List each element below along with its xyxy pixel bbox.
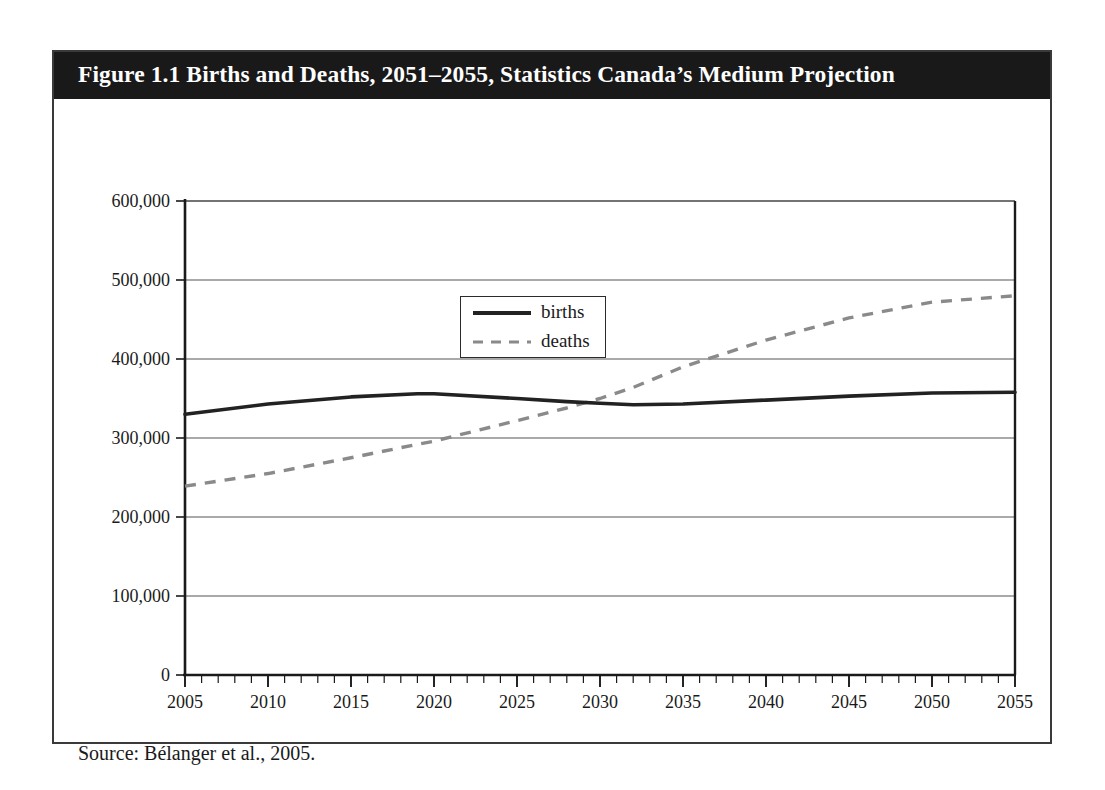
figure-title-bar: Figure 1.1 Births and Deaths, 2051–2055,… — [54, 52, 1050, 99]
series-line-births — [185, 392, 1015, 414]
figure-container: Figure 1.1 Births and Deaths, 2051–2055,… — [52, 50, 1052, 744]
chart-y-tick-labels: 600,000 500,000 400,000 300,000 200,000 … — [112, 191, 171, 685]
legend-swatch-births-icon — [471, 297, 533, 328]
y-tick-label: 400,000 — [112, 349, 171, 369]
x-tick-label: 2055 — [997, 692, 1033, 712]
y-tick-label: 300,000 — [112, 428, 171, 448]
x-tick-label: 2045 — [831, 692, 867, 712]
x-tick-label: 2020 — [416, 692, 452, 712]
chart-x-major-ticks — [185, 675, 1015, 687]
chart-y-ticks — [176, 201, 185, 675]
x-tick-label: 2010 — [250, 692, 286, 712]
x-tick-label: 2035 — [665, 692, 701, 712]
y-tick-label: 200,000 — [112, 507, 171, 527]
legend-entry-deaths: deaths — [461, 326, 605, 357]
legend-label-births: births — [541, 301, 584, 323]
x-tick-label: 2030 — [582, 692, 618, 712]
legend-swatch-deaths-icon — [471, 326, 533, 357]
legend-label-deaths: deaths — [541, 330, 590, 352]
y-tick-label: 0 — [161, 665, 170, 685]
y-tick-label: 500,000 — [112, 270, 171, 290]
y-tick-label: 600,000 — [112, 191, 171, 211]
x-tick-label: 2050 — [914, 692, 950, 712]
legend-entry-births: births — [461, 297, 605, 328]
x-tick-label: 2025 — [499, 692, 535, 712]
figure-source-note: Source: Bélanger et al., 2005. — [78, 742, 315, 765]
chart-legend: births deaths — [460, 296, 606, 358]
chart-plot-region: 600,000 500,000 400,000 300,000 200,000 … — [54, 99, 1050, 742]
x-tick-label: 2015 — [333, 692, 369, 712]
chart-x-tick-labels: 2005201020152020202520302035204020452050… — [167, 692, 1033, 712]
x-tick-label: 2040 — [748, 692, 784, 712]
figure-title: Figure 1.1 Births and Deaths, 2051–2055,… — [78, 61, 895, 88]
y-tick-label: 100,000 — [112, 586, 171, 606]
x-tick-label: 2005 — [167, 692, 203, 712]
line-chart: 600,000 500,000 400,000 300,000 200,000 … — [54, 99, 1050, 742]
